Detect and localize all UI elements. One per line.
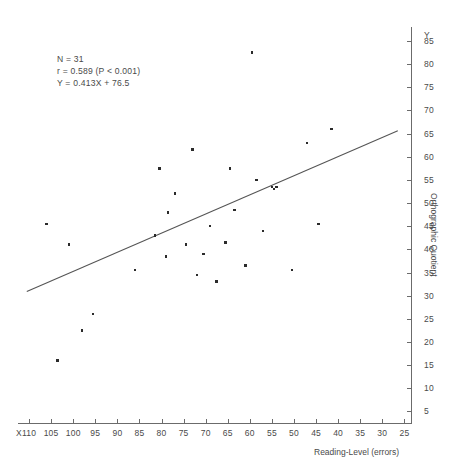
x-tick-label: 105 — [39, 428, 63, 438]
y-tick — [407, 41, 412, 42]
data-point — [215, 280, 218, 283]
data-point — [158, 167, 161, 170]
data-point — [251, 51, 254, 54]
x-tick-label: 55 — [260, 428, 284, 438]
y-tick-label: 25 — [424, 314, 434, 324]
data-point — [291, 269, 294, 272]
data-point — [81, 329, 84, 332]
y-tick-label: 10 — [424, 383, 434, 393]
scatter-plot-figure: N = 31 r = 0.589 (P < 0.001) Y = 0.413X … — [0, 0, 473, 475]
x-tick-label: 60 — [238, 428, 262, 438]
y-tick-label: 85 — [424, 36, 434, 46]
y-tick — [407, 342, 412, 343]
data-point — [174, 192, 177, 195]
x-tick — [139, 419, 140, 424]
y-tick — [407, 157, 412, 158]
y-tick-label: 70 — [424, 105, 434, 115]
x-tick — [51, 419, 52, 424]
data-point — [167, 211, 170, 214]
y-tick-label: 45 — [424, 221, 434, 231]
y-tick-label: 50 — [424, 198, 434, 208]
y-tick-label: 40 — [424, 244, 434, 254]
data-point — [262, 230, 265, 233]
x-tick — [29, 419, 30, 424]
x-tick-label: 100 — [61, 428, 85, 438]
y-tick — [407, 180, 412, 181]
y-tick — [407, 249, 412, 250]
x-tick — [117, 419, 118, 424]
x-tick-label: 85 — [127, 428, 151, 438]
x-tick — [272, 419, 273, 424]
data-point — [330, 128, 333, 131]
x-tick-label: 75 — [172, 428, 196, 438]
y-tick-label: 65 — [424, 129, 434, 139]
y-tick-label: 15 — [424, 360, 434, 370]
x-tick — [206, 419, 207, 424]
y-tick-label: 20 — [424, 337, 434, 347]
x-tick — [250, 419, 251, 424]
x-tick-label: 45 — [304, 428, 328, 438]
regression-line — [27, 131, 398, 292]
y-tick-label: 35 — [424, 268, 434, 278]
x-tick — [228, 419, 229, 424]
data-point — [306, 142, 309, 145]
x-tick — [162, 419, 163, 424]
x-tick-label: 35 — [348, 428, 372, 438]
x-tick-label: 40 — [326, 428, 350, 438]
y-tick — [407, 273, 412, 274]
x-tick — [404, 419, 405, 424]
y-tick-label: 55 — [424, 175, 434, 185]
y-tick — [407, 87, 412, 88]
y-tick — [407, 411, 412, 412]
x-tick — [294, 419, 295, 424]
data-point — [275, 186, 278, 189]
data-point — [202, 253, 205, 256]
x-tick-label: 110 — [17, 428, 41, 438]
x-tick-label: 95 — [83, 428, 107, 438]
data-point — [317, 223, 320, 226]
x-tick-label: 90 — [105, 428, 129, 438]
y-tick — [407, 110, 412, 111]
data-point — [255, 179, 258, 182]
x-tick-label: 70 — [194, 428, 218, 438]
y-tick-label: 5 — [424, 406, 429, 416]
data-point — [229, 167, 232, 170]
data-point — [224, 241, 227, 244]
y-tick-label: 80 — [424, 59, 434, 69]
y-tick-label: 60 — [424, 152, 434, 162]
data-point — [191, 148, 194, 151]
data-point — [165, 255, 168, 258]
y-tick — [407, 388, 412, 389]
y-tick — [407, 226, 412, 227]
x-tick — [95, 419, 96, 424]
data-point — [56, 359, 59, 362]
data-point — [185, 243, 188, 246]
y-tick — [407, 64, 412, 65]
data-point — [233, 209, 236, 212]
x-tick — [338, 419, 339, 424]
x-tick — [184, 419, 185, 424]
x-tick-label: 50 — [282, 428, 306, 438]
y-tick — [407, 365, 412, 366]
x-tick-label: 25 — [392, 428, 416, 438]
y-tick — [407, 203, 412, 204]
data-point — [273, 188, 276, 191]
y-tick-label: 30 — [424, 291, 434, 301]
x-tick — [360, 419, 361, 424]
data-point — [45, 223, 48, 226]
y-tick — [407, 134, 412, 135]
regression-line-layer — [0, 0, 473, 475]
y-tick-label: 75 — [424, 82, 434, 92]
data-point — [154, 234, 157, 237]
data-point — [92, 313, 95, 316]
data-point — [68, 243, 71, 246]
data-point — [244, 264, 247, 267]
x-tick — [382, 419, 383, 424]
x-tick-label: 30 — [370, 428, 394, 438]
data-point — [196, 274, 199, 277]
y-tick — [407, 319, 412, 320]
data-point — [134, 269, 137, 272]
x-tick-label: 65 — [216, 428, 240, 438]
data-point — [209, 225, 212, 228]
x-tick — [73, 419, 74, 424]
